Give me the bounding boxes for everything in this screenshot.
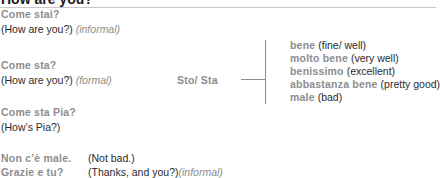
question-english: (How are you?) bbox=[1, 23, 73, 35]
reply-english: (Not bad.) bbox=[88, 152, 135, 164]
question-italian: Come sta Pia? bbox=[1, 106, 76, 118]
question-italian: Come sta? bbox=[1, 59, 56, 71]
question-english: (How’s Pia?) bbox=[1, 121, 60, 133]
answer-italian: molto bene bbox=[290, 52, 348, 64]
answer-item: molto bene (very well) bbox=[290, 52, 399, 64]
answer-english: (very well) bbox=[351, 52, 399, 64]
reply-italian: Grazie e tu? bbox=[1, 166, 64, 178]
answer-italian: abbastanza bene bbox=[290, 78, 378, 90]
answer-english: (bad) bbox=[318, 91, 343, 103]
title-divider bbox=[0, 7, 436, 8]
answer-italian: benissimo bbox=[290, 65, 344, 77]
answer-item: benissimo (excellent) bbox=[290, 65, 395, 77]
answer-english: (pretty good) bbox=[381, 78, 440, 90]
answer-item: bene (fine/ well) bbox=[290, 39, 366, 51]
reply-translation: (Thanks, and you?)(informal) bbox=[88, 166, 223, 178]
question-translation: (How’s Pia?) bbox=[1, 121, 60, 133]
reply-english: (Thanks, and you?) bbox=[88, 166, 178, 178]
answer-item: male (bad) bbox=[290, 91, 342, 103]
answer-english: (excellent) bbox=[347, 65, 395, 77]
question-note: (formal) bbox=[76, 74, 112, 86]
answer-stem: Sto/ Sta bbox=[177, 74, 218, 86]
question-italian: Come stai? bbox=[1, 8, 60, 20]
question-translation: (How are you?) (formal) bbox=[1, 74, 112, 86]
answer-italian: bene bbox=[290, 39, 315, 51]
reply-note: (informal) bbox=[178, 166, 222, 178]
connector-horizontal bbox=[241, 79, 265, 80]
question-english: (How are you?) bbox=[1, 74, 73, 86]
reply-italian: Non c’è male. bbox=[1, 152, 71, 164]
question-note: (informal) bbox=[76, 23, 120, 35]
answer-english: (fine/ well) bbox=[318, 39, 366, 51]
question-translation: (How are you?) (informal) bbox=[1, 23, 120, 35]
answer-item: abbastanza bene (pretty good) bbox=[290, 78, 440, 90]
connector-vertical bbox=[265, 40, 266, 104]
page-title: How are you? bbox=[1, 0, 93, 5]
answer-italian: male bbox=[290, 91, 315, 103]
